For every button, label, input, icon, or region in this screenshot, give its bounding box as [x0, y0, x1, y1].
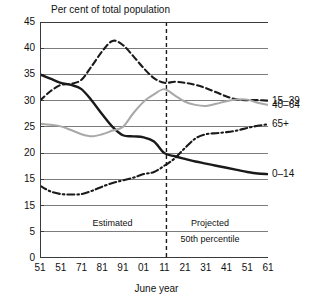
x-tick-label: 51 — [29, 263, 51, 273]
series-line-0-14 — [40, 74, 268, 174]
y-tick-label: 15 — [9, 201, 35, 211]
chart-figure: Per cent of total population 45403530252… — [0, 0, 313, 306]
y-tick-label: 0 — [9, 253, 35, 263]
x-tick-label: 51 — [50, 263, 72, 273]
x-tick-label: 11 — [153, 263, 175, 273]
chart-title: Per cent of total population — [51, 4, 170, 16]
y-tick-label: 25 — [9, 122, 35, 132]
x-tick-label: 51 — [236, 263, 258, 273]
series-label-65+: 65+ — [272, 119, 289, 129]
series-line-15-39 — [40, 41, 268, 101]
x-tick-label: 31 — [195, 263, 217, 273]
x-axis-title: June year — [0, 283, 313, 294]
x-tick-label: 91 — [112, 263, 134, 273]
x-tick-label: 71 — [70, 263, 92, 273]
series-label-40-64: 40–64 — [272, 100, 300, 110]
y-tick-label: 40 — [9, 43, 35, 53]
gridlines — [40, 22, 268, 232]
annotation-projected: Projected — [160, 218, 260, 229]
x-tick-label: 61 — [257, 263, 279, 273]
x-tick-label: 41 — [216, 263, 238, 273]
y-tick-label: 35 — [9, 69, 35, 79]
x-tick-label: 01 — [133, 263, 155, 273]
y-tick-marks — [40, 22, 44, 258]
series-line-40-64 — [40, 89, 268, 136]
x-tick-label: 21 — [174, 263, 196, 273]
y-tick-label: 20 — [9, 148, 35, 158]
series-label-0-14: 0–14 — [272, 169, 294, 179]
data-series-group — [40, 41, 268, 195]
y-tick-label: 5 — [9, 227, 35, 237]
y-tick-label: 30 — [9, 96, 35, 106]
annotation-percentile: 50th percentile — [160, 234, 260, 245]
y-tick-label: 45 — [9, 17, 35, 27]
y-tick-label: 15 — [9, 174, 35, 184]
annotation-estimated: Estimated — [63, 218, 163, 229]
x-tick-label: 81 — [91, 263, 113, 273]
series-line-65+ — [40, 124, 268, 194]
